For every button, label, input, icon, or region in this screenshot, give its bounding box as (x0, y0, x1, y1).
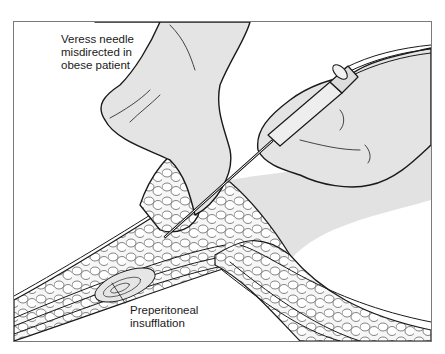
veress-label-line1: Veress needle (61, 33, 134, 46)
veress-label-line2: misdirected in (61, 46, 134, 59)
preperitoneal-insufflation-label: Preperitoneal insufflation (130, 304, 198, 330)
preperitoneal-label-line2: insufflation (130, 317, 198, 330)
veress-needle-label: Veress needle misdirected in obese patie… (61, 33, 134, 72)
veress-label-line3: obese patient (61, 59, 134, 72)
preperitoneal-label-line1: Preperitoneal (130, 304, 198, 317)
abdominal-wall-right (215, 241, 431, 341)
